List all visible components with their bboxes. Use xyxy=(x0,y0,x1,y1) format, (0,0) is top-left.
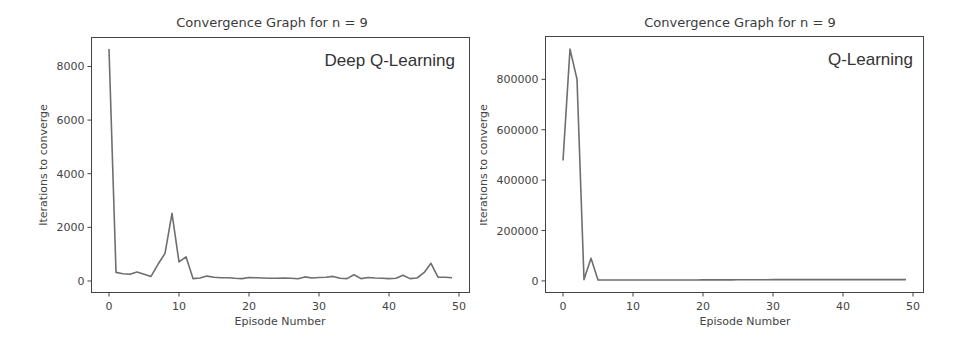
x-axis-label: Episode Number xyxy=(700,315,791,328)
chart-title: Convergence Graph for n = 9 xyxy=(176,15,368,30)
x-axis-label: Episode Number xyxy=(235,315,326,328)
y-tick-label: 600000 xyxy=(497,124,539,137)
x-axis: 01020304050 xyxy=(560,293,921,313)
y-tick-label: 2000 xyxy=(57,221,85,234)
chart-svg: Convergence Graph for n = 9 020004000600… xyxy=(0,0,480,347)
plot-frame xyxy=(546,37,924,293)
x-tick-label: 0 xyxy=(106,300,113,313)
x-tick-label: 40 xyxy=(836,300,850,313)
x-tick-label: 30 xyxy=(312,300,326,313)
x-tick-label: 10 xyxy=(172,300,186,313)
y-tick-label: 0 xyxy=(532,275,539,288)
chart-title: Convergence Graph for n = 9 xyxy=(644,15,836,30)
chart-svg: Convergence Graph for n = 9 020000040000… xyxy=(480,0,959,347)
series-annotation: Deep Q-Learning xyxy=(325,51,455,70)
chart-deep-q-learning: Convergence Graph for n = 9 020004000600… xyxy=(0,0,480,347)
y-axis: 0200000400000600000800000 xyxy=(497,73,546,288)
series-annotation: Q-Learning xyxy=(828,50,913,69)
y-axis-label: Iterations to converge xyxy=(480,104,490,226)
x-tick-label: 20 xyxy=(242,300,256,313)
x-tick-label: 40 xyxy=(382,300,396,313)
y-axis-label: Iterations to converge xyxy=(37,104,50,226)
y-tick-label: 4000 xyxy=(57,168,85,181)
x-tick-label: 50 xyxy=(906,300,920,313)
y-tick-label: 8000 xyxy=(57,60,85,73)
y-tick-label: 400000 xyxy=(497,174,539,187)
series-line-q-learning xyxy=(563,49,906,280)
plot-frame xyxy=(92,38,470,293)
x-tick-label: 30 xyxy=(766,300,780,313)
x-tick-label: 20 xyxy=(696,300,710,313)
x-tick-label: 10 xyxy=(626,300,640,313)
x-axis: 01020304050 xyxy=(106,293,467,313)
y-tick-label: 0 xyxy=(78,275,85,288)
y-tick-label: 6000 xyxy=(57,114,85,127)
y-tick-label: 800000 xyxy=(497,73,539,86)
y-axis: 02000400060008000 xyxy=(57,60,92,288)
chart-q-learning: Convergence Graph for n = 9 020000040000… xyxy=(480,0,959,347)
x-tick-label: 0 xyxy=(560,300,567,313)
series-line-deep-q-learning xyxy=(109,49,452,279)
y-tick-label: 200000 xyxy=(497,225,539,238)
x-tick-label: 50 xyxy=(452,300,466,313)
